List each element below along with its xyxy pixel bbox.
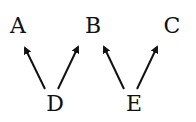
node-c: C bbox=[159, 15, 185, 37]
edge-e-to-b bbox=[104, 47, 124, 89]
node-b: B bbox=[80, 15, 106, 37]
node-a: A bbox=[5, 15, 31, 37]
edge-d-to-b bbox=[58, 47, 78, 89]
dependency-diagram: A B C D E bbox=[0, 0, 196, 122]
node-e: E bbox=[121, 93, 147, 115]
node-d: D bbox=[42, 93, 68, 115]
edge-d-to-a bbox=[25, 48, 45, 89]
edge-e-to-c bbox=[137, 47, 157, 89]
